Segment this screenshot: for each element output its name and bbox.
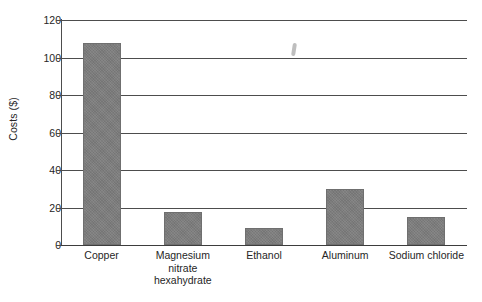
gridline	[61, 58, 467, 59]
gridline	[61, 133, 467, 134]
x-axis-label-line: nitrate	[128, 262, 238, 275]
x-axis-label-line: hexahydrate	[128, 274, 238, 287]
x-axis-label-line: Sodium chloride	[371, 249, 481, 262]
bar	[326, 189, 364, 245]
bar	[164, 212, 202, 245]
gridline	[61, 95, 467, 96]
y-tick-label: 60	[15, 127, 61, 139]
x-axis-line	[61, 245, 467, 246]
bar	[245, 228, 283, 245]
x-axis-labels: CopperMagnesiumnitratehexahydrateEthanol…	[0, 249, 482, 302]
bar-chart: Costs ($) 020406080100120 CopperMagnesiu…	[0, 0, 482, 302]
plot-area	[61, 20, 467, 245]
bar	[83, 43, 121, 246]
y-tick-label: 20	[15, 202, 61, 214]
x-axis-label: Sodium chloride	[371, 249, 481, 262]
gridline	[61, 20, 467, 21]
y-tick-label: 100	[15, 52, 61, 64]
y-tick-label: 120	[15, 14, 61, 26]
gridline	[61, 208, 467, 209]
y-tick-label: 40	[15, 164, 61, 176]
bar	[407, 217, 445, 245]
y-tick-label: 80	[15, 89, 61, 101]
gridline	[61, 170, 467, 171]
